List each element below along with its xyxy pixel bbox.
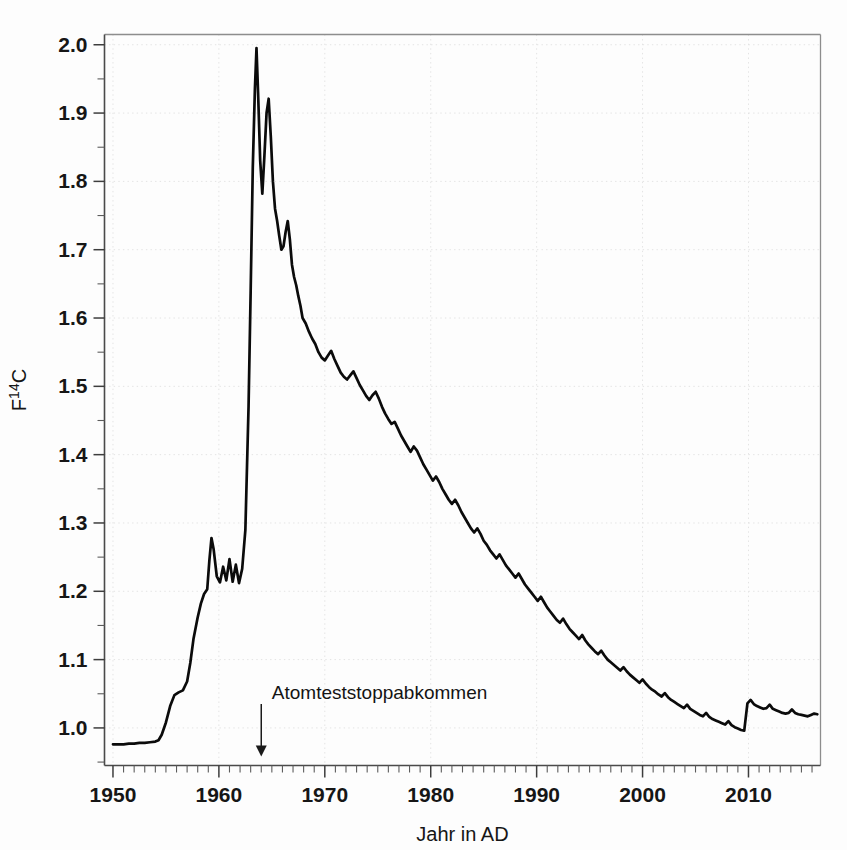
y-tick-label: 2.0 — [58, 33, 87, 56]
y-tick-label: 1.3 — [58, 511, 87, 534]
x-tick-label: 1980 — [407, 783, 454, 806]
y-title-f: F — [8, 399, 30, 411]
y-tick-label: 1.4 — [58, 443, 88, 466]
axis-ticks — [94, 45, 813, 778]
y-axis-title: F14C — [6, 369, 30, 411]
data-curve — [113, 48, 817, 744]
series-line-atmospheric-f14c — [113, 48, 817, 744]
annotation-label: Atomteststoppabkommen — [272, 682, 487, 703]
figure-container: Atomteststoppabkommen 195019601970198019… — [0, 0, 847, 850]
x-axis-title: Jahr in AD — [416, 823, 508, 845]
y-tick-label: 1.0 — [58, 716, 87, 739]
y-title-c: C — [8, 369, 30, 383]
x-tick-label: 1960 — [196, 783, 243, 806]
plot-frame — [105, 35, 821, 766]
svg-text:F14C: F14C — [6, 369, 30, 411]
x-tick-label: 1970 — [301, 783, 348, 806]
annotation-group: Atomteststoppabkommen — [256, 682, 488, 757]
grid-lines — [105, 35, 821, 766]
x-tick-label: 1950 — [90, 783, 137, 806]
axis-labels: 19501960197019801990200020101.01.11.21.3… — [6, 33, 772, 845]
y-tick-label: 1.1 — [58, 648, 88, 671]
annotation-arrow-head — [256, 746, 267, 757]
y-tick-label: 1.7 — [58, 238, 87, 261]
y-tick-label: 1.9 — [58, 101, 87, 124]
y-tick-label: 1.6 — [58, 306, 87, 329]
y-title-superscript: 14 — [6, 383, 22, 399]
y-tick-label: 1.5 — [58, 374, 88, 397]
x-tick-label: 1990 — [513, 783, 560, 806]
bomb-curve-chart: Atomteststoppabkommen 195019601970198019… — [0, 0, 847, 850]
x-tick-label: 2010 — [725, 783, 772, 806]
y-tick-label: 1.2 — [58, 579, 87, 602]
x-tick-label: 2000 — [619, 783, 666, 806]
y-tick-label: 1.8 — [58, 169, 88, 192]
